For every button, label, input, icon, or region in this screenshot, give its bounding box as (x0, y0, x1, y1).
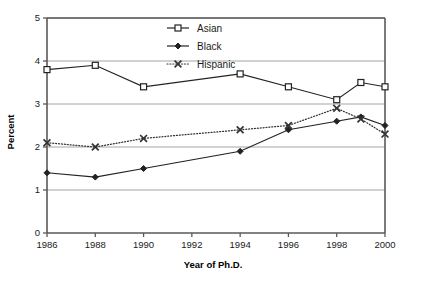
y-tick-label: 2 (35, 141, 40, 152)
x-tick-label: 1994 (230, 239, 251, 250)
y-tick-label: 4 (35, 55, 40, 66)
x-tick-label: 1988 (85, 239, 106, 250)
x-tick-label: 1986 (36, 239, 57, 250)
chart-container: 012345 19861988199019921994199619982000 … (0, 0, 426, 283)
data-point-asian (382, 84, 388, 90)
data-point-asian (237, 71, 243, 77)
y-tick-label: 3 (35, 98, 40, 109)
x-axis-title: Year of Ph.D. (184, 259, 243, 270)
x-tick-label: 2000 (374, 239, 395, 250)
y-axis-title: Percent (5, 114, 16, 150)
legend-label-hispanic: Hispanic (197, 59, 235, 70)
data-point-asian (44, 67, 50, 73)
data-point-asian (92, 62, 98, 68)
legend-label-asian: Asian (197, 23, 222, 34)
data-point-asian (334, 97, 340, 103)
legend-label-black: Black (197, 41, 222, 52)
line-chart: 012345 19861988199019921994199619982000 … (0, 0, 426, 283)
x-tick-label: 1996 (278, 239, 299, 250)
x-tick-label: 1990 (133, 239, 154, 250)
data-point-asian (358, 80, 364, 86)
x-tick-label: 1992 (181, 239, 202, 250)
data-point-legend-asian (175, 25, 181, 31)
data-point-asian (285, 84, 291, 90)
data-point-asian (141, 84, 147, 90)
y-tick-label: 1 (35, 184, 40, 195)
y-tick-label: 0 (35, 227, 40, 238)
y-tick-label: 5 (35, 12, 40, 23)
x-tick-label: 1998 (326, 239, 347, 250)
